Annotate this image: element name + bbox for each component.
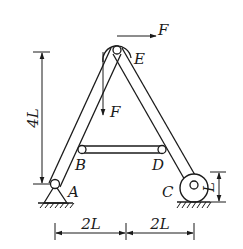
pin-B bbox=[78, 146, 86, 154]
label-B: B bbox=[74, 156, 86, 174]
pin-D bbox=[158, 146, 166, 154]
dimension-height-label: 4L bbox=[24, 108, 42, 129]
label-E: E bbox=[133, 50, 145, 68]
dimension-left-span-label: 2L bbox=[80, 215, 101, 233]
label-C: C bbox=[162, 183, 174, 201]
label-D: D bbox=[151, 156, 164, 174]
dimension-spans: 2L 2L bbox=[55, 215, 194, 240]
ground-hatch-icon bbox=[177, 202, 211, 208]
dimension-right-span-label: 2L bbox=[149, 215, 170, 233]
dimension-roller-label: L bbox=[200, 182, 218, 193]
label-A: A bbox=[66, 183, 79, 201]
force-label-horizontal: F bbox=[157, 21, 169, 39]
member-BD bbox=[78, 146, 166, 154]
truss-diagram: 4L L 2L 2L A B C D E F F bbox=[0, 0, 243, 249]
ground-hatch-icon bbox=[40, 203, 74, 208]
dimension-height: 4L bbox=[24, 52, 50, 184]
force-label-vertical: F bbox=[109, 103, 121, 121]
